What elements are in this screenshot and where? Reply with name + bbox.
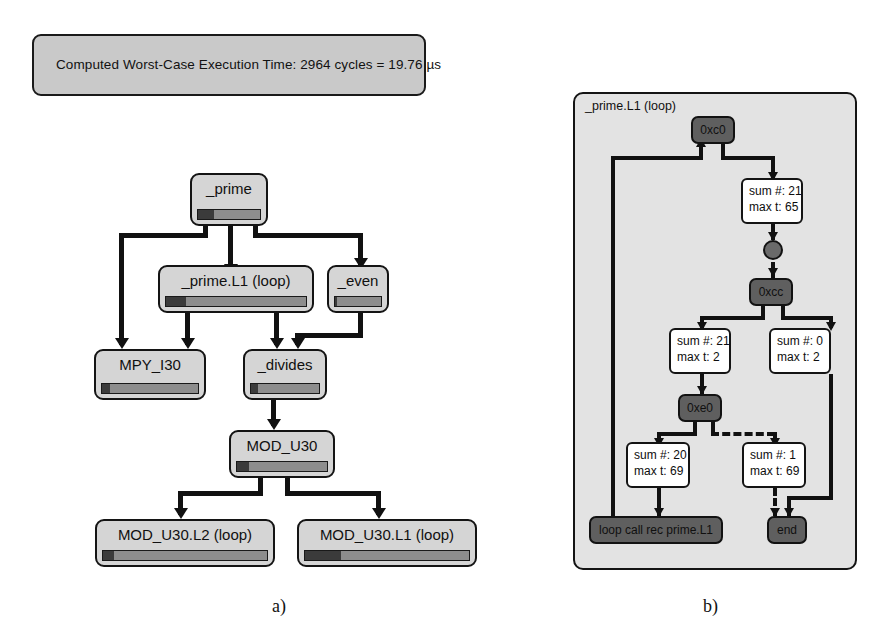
coverage-bar <box>197 209 261 220</box>
node-label: MOD_U30 <box>231 437 333 454</box>
edge-even-run <box>295 333 363 338</box>
edge-prime-to-mpy <box>119 233 124 345</box>
edge-0xcc-left-run <box>700 316 765 320</box>
arrowhead-junction-to-0xcc <box>768 268 778 277</box>
node-label: _divides <box>245 356 325 373</box>
edge-0xcc-right-run <box>781 316 833 320</box>
annotation-sum: sum #: 1 <box>750 447 798 463</box>
coverage-bar-fill <box>335 297 337 306</box>
annotation-sum: sum #: 21 <box>749 183 795 199</box>
flow-node-label: 0xcc <box>759 285 784 299</box>
flow-graph-title: _prime.L1 (loop) <box>585 99 676 113</box>
flow-annotation-a1: sum #: 21 max t: 65 <box>741 178 803 224</box>
call-graph-node-mpy-i30[interactable]: MPY_I30 <box>94 349 206 400</box>
edge-modu30-right-run <box>285 491 381 496</box>
edge-loopback-run <box>611 156 703 160</box>
call-graph-node-mod-u30[interactable]: MOD_U30 <box>229 430 335 478</box>
arrowhead-primel1-to-mpy <box>181 338 195 349</box>
edge-prime-left-run <box>119 233 208 238</box>
flow-graph-panel: _prime.L1 (loop) <box>573 92 857 570</box>
coverage-bar <box>102 550 268 561</box>
flow-node-label: loop call rec prime.L1 <box>599 523 713 537</box>
coverage-bar <box>334 296 382 307</box>
edge-a3-riser <box>829 374 833 498</box>
node-label: MOD_U30.L2 (loop) <box>97 526 273 543</box>
node-label: _prime <box>192 180 266 197</box>
coverage-bar-fill <box>166 297 186 306</box>
flow-node-loop-call[interactable]: loop call rec prime.L1 <box>589 516 723 544</box>
coverage-bar-fill <box>251 384 258 393</box>
annotation-maxt: max t: 2 <box>677 349 723 365</box>
flow-annotation-a4: sum #: 20 max t: 69 <box>626 442 690 488</box>
edge-modu30-left-run <box>178 491 263 496</box>
arrowhead-prime-to-mpy <box>115 338 129 349</box>
arrowhead-modu30-to-l1 <box>372 508 386 519</box>
edge-prime-right-run <box>253 233 363 238</box>
coverage-bar <box>304 550 470 561</box>
coverage-bar <box>101 383 199 394</box>
edge-loopback-to-0xc0 <box>699 146 703 158</box>
coverage-bar-fill <box>305 551 341 560</box>
figure-root: Computed Worst-Case Execution Time: 2964… <box>0 0 878 640</box>
flow-node-end[interactable]: end <box>767 516 807 544</box>
node-label: _even <box>329 272 387 289</box>
flow-annotation-a3: sum #: 0 max t: 2 <box>769 328 831 374</box>
coverage-bar <box>236 461 328 472</box>
coverage-bar-fill <box>103 551 114 560</box>
annotation-sum: sum #: 21 <box>677 333 723 349</box>
coverage-bar-fill <box>237 462 249 471</box>
arrowhead-even-to-divides <box>291 338 305 349</box>
coverage-bar <box>250 383 320 394</box>
node-label: _prime.L1 (loop) <box>160 272 312 289</box>
flow-node-0xcc[interactable]: 0xcc <box>749 278 793 306</box>
edge-0xe0-right-run-dashed <box>711 432 775 436</box>
caption-b: b) <box>703 596 718 617</box>
flow-node-label: 0xe0 <box>687 401 713 415</box>
arrowhead-divides-to-modu30 <box>267 419 281 430</box>
annotation-maxt: max t: 2 <box>777 349 823 365</box>
edge-0xc0-right-run <box>721 156 775 160</box>
wcet-banner-text: Computed Worst-Case Execution Time: 2964… <box>56 57 441 72</box>
node-label: MPY_I30 <box>96 356 204 373</box>
coverage-bar-fill <box>102 384 110 393</box>
edge-0xe0-left-run <box>657 432 697 436</box>
call-graph-node-divides[interactable]: _divides <box>243 349 327 400</box>
call-graph-node-mod-u30-l2[interactable]: MOD_U30.L2 (loop) <box>95 519 275 567</box>
flow-node-0xe0[interactable]: 0xe0 <box>678 394 722 422</box>
call-graph-node-mod-u30-l1[interactable]: MOD_U30.L1 (loop) <box>297 519 477 567</box>
node-label: MOD_U30.L1 (loop) <box>299 526 475 543</box>
annotation-maxt: max t: 69 <box>634 463 682 479</box>
annotation-maxt: max t: 65 <box>749 199 795 215</box>
flow-node-0xc0[interactable]: 0xc0 <box>691 116 735 144</box>
annotation-sum: sum #: 0 <box>777 333 823 349</box>
flow-annotation-a2: sum #: 21 max t: 2 <box>669 328 731 374</box>
flow-node-junction[interactable] <box>763 240 783 260</box>
coverage-bar-fill <box>198 210 214 219</box>
edge-loopback-riser <box>611 156 615 524</box>
arrowhead-modu30-to-l2 <box>174 508 188 519</box>
flow-annotation-a5: sum #: 1 max t: 69 <box>742 442 806 488</box>
coverage-bar <box>165 296 307 307</box>
call-graph-node-prime[interactable]: _prime <box>190 173 268 226</box>
annotation-maxt: max t: 69 <box>750 463 798 479</box>
call-graph-node-even[interactable]: _even <box>327 265 389 313</box>
arrowhead-primel1-to-divides <box>270 338 284 349</box>
flow-node-label: 0xc0 <box>700 123 725 137</box>
call-graph-node-prime-l1[interactable]: _prime.L1 (loop) <box>158 265 314 313</box>
edge-a3-run <box>787 496 833 500</box>
flow-node-label: end <box>777 523 797 537</box>
caption-a: a) <box>272 596 286 617</box>
wcet-banner: Computed Worst-Case Execution Time: 2964… <box>32 34 426 96</box>
annotation-sum: sum #: 20 <box>634 447 682 463</box>
